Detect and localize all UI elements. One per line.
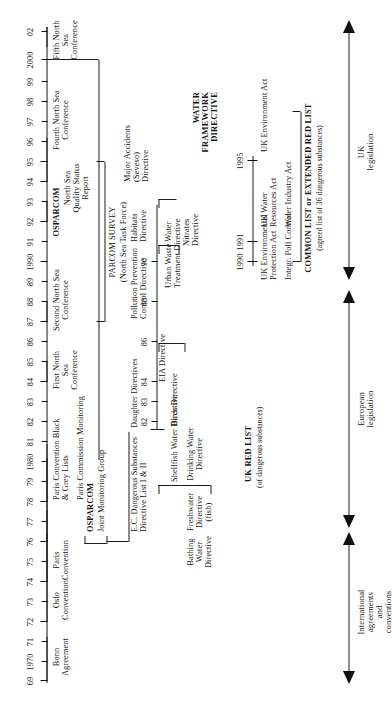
axis-tick xyxy=(41,241,47,242)
event-fifth-north-sea-conference: Fifth North Sea Conference xyxy=(52,20,79,60)
axis-tick xyxy=(41,401,47,402)
eu-tick-88 xyxy=(151,301,157,302)
event-leader-line xyxy=(46,637,47,681)
arrow-left-icon xyxy=(342,266,355,280)
axis-tick xyxy=(41,421,47,422)
eu-tick-84 xyxy=(151,381,157,382)
axis-year-label: 98 xyxy=(26,98,35,107)
common-list-bracket xyxy=(292,111,300,112)
axis-tick xyxy=(41,281,47,282)
category-label-international: International agreements and conventions xyxy=(356,589,392,634)
event-paris-commission-monitoring: Paris Commission Monitoring xyxy=(76,396,85,500)
event-nitrates-directive: Nitrates Directive xyxy=(182,214,200,246)
axis-year-label: 1990 xyxy=(26,253,35,270)
event-osparcom-jmg-line2: Joint Monitoring Group xyxy=(97,450,106,532)
axis-year-label: 81 xyxy=(26,438,35,447)
event-uk-water-resources-act: UK Water Resources Act xyxy=(260,178,278,227)
event-osparcom: OSPARCOM xyxy=(52,187,61,236)
axis-year-label: 71 xyxy=(26,638,35,647)
axis-year-label: 69 xyxy=(26,677,35,686)
event-common-list-line1: COMMON LIST or EXTENDED RED LIST xyxy=(304,103,313,272)
event-eia-directive: EIA Directive xyxy=(158,334,167,382)
axis-tick xyxy=(41,121,47,122)
eu-water-group-bracket xyxy=(158,485,210,486)
event-water-industry-act: Water Industry Act xyxy=(284,162,293,227)
event-fourth-north-sea-conference: Fourth North Sea Conference xyxy=(52,90,70,150)
event-leader-line xyxy=(106,541,128,542)
common-list-bracket xyxy=(300,112,301,262)
uk-year-1990: 1990 xyxy=(236,253,245,270)
eu-year-84: 84 xyxy=(140,378,149,387)
uk-tick-1995 xyxy=(247,160,257,161)
event-urban-waste-water-treatment: Urban Waste Water Treatment Directive xyxy=(164,219,182,288)
axis-year-label: 87 xyxy=(26,318,35,327)
arrow-left-icon xyxy=(342,514,355,528)
axis-tick xyxy=(41,441,47,442)
event-parcom-survey-line2: (North Sea Task Force) xyxy=(119,202,128,282)
event-leader-line xyxy=(46,162,47,182)
axis-year-label: 84 xyxy=(26,378,35,387)
uk-tick-1991 xyxy=(247,241,257,242)
event-parcom-survey-line1: PARCOM SURVEY xyxy=(108,207,117,278)
eu-year-83: 83 xyxy=(140,398,149,407)
event-daughter-directives: Daughter Directives xyxy=(130,358,139,428)
axis-year-label: 85 xyxy=(26,358,35,367)
axis-year-label: 79 xyxy=(26,478,35,487)
eu-year-86: 86 xyxy=(140,338,149,347)
event-ec-dangerous-substances: E.C. Dangerous Substances Directive List… xyxy=(130,437,148,532)
axis-year-label: 1980 xyxy=(26,453,35,470)
axis-year-label: 83 xyxy=(26,398,35,407)
osparcom-jmg-bracket xyxy=(84,543,106,544)
common-list-bracket xyxy=(292,261,300,262)
axis-year-label: 94 xyxy=(26,178,35,187)
category-label-european: European legislation xyxy=(356,391,374,428)
event-leader-line xyxy=(46,362,47,382)
parcom-survey-bracket xyxy=(104,162,105,322)
category-arrow-european xyxy=(348,300,349,516)
axis-year-label: 97 xyxy=(26,118,35,127)
event-water-framework-directive: WATER FRAMEWORK DIRECTIVE xyxy=(192,92,219,184)
arrow-left-icon xyxy=(342,670,355,684)
axis-year-label: 72 xyxy=(26,618,35,627)
category-arrow-uk xyxy=(348,30,349,268)
axis-year-label: 96 xyxy=(26,138,35,147)
eu-subaxis xyxy=(156,205,157,430)
event-osparcom-jmg-line1: OSPARCOM xyxy=(86,483,95,532)
axis-year-label: 78 xyxy=(26,498,35,507)
event-first-north-sea-conference: First North Sea Conference xyxy=(52,350,79,390)
event-paris-convention: Paris Convention xyxy=(52,540,70,580)
axis-year-label: 82 xyxy=(26,418,35,427)
event-leader-line xyxy=(46,202,47,222)
event-bathing-water-directive: Bathing Water Directive xyxy=(186,536,213,568)
event-bonn-agreement: Bonn Agreement xyxy=(52,638,70,676)
event-shellfish-water-directive: Shellfish Water Directive xyxy=(170,395,179,482)
event-uk-red-list-line2: (of dangerous substances) xyxy=(255,407,263,488)
axis-year-label: 93 xyxy=(26,198,35,207)
event-leader-line xyxy=(46,458,47,502)
uk-year-1995: 1995 xyxy=(236,152,245,169)
axis-year-label: 74 xyxy=(26,578,35,587)
uk-tick-1990 xyxy=(247,261,257,262)
eu-subaxis-start xyxy=(150,429,164,430)
event-paris-black-grey-lists: Paris Convention Black & Grey Lists xyxy=(52,418,70,500)
uk-subaxis xyxy=(252,156,253,266)
axis-tick xyxy=(41,101,47,102)
axis-year-label: 86 xyxy=(26,338,35,347)
event-leader-line xyxy=(46,302,47,322)
axis-year-label: 73 xyxy=(26,598,35,607)
axis-year-label: 95 xyxy=(26,158,35,167)
osparcom-jmg-bracket xyxy=(106,536,107,544)
axis-year-label: 2000 xyxy=(26,51,35,68)
axis-year-label: 99 xyxy=(26,78,35,87)
event-freshwater-directive: Freshwater Directive (fish) xyxy=(186,493,213,531)
arrow-right-icon xyxy=(342,290,355,304)
event-leader-line xyxy=(46,138,47,162)
event-habitats-directive: Habitats Directive xyxy=(130,210,148,242)
event-leader-line xyxy=(46,27,47,47)
axis-year-label: 1970 xyxy=(26,653,35,670)
event-uk-red-list-line1: UK RED LIST xyxy=(244,426,253,482)
event-drinking-water-directive: Drinking Water Directive xyxy=(186,427,204,480)
parcom-survey-bracket xyxy=(96,321,104,322)
